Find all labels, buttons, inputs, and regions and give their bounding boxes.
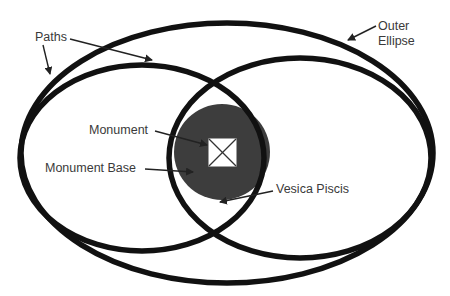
label-outer-ellipse-line2: Ellipse (378, 34, 415, 48)
arrow-paths-to-outer (43, 45, 50, 74)
label-outer-ellipse-line1: Outer (378, 19, 409, 33)
vesica-diagram: Paths Outer Ellipse Monument Monument Ba… (0, 0, 450, 296)
monument (209, 139, 236, 166)
label-monument-base: Monument Base (45, 161, 136, 175)
label-monument: Monument (89, 123, 149, 137)
arrow-paths-to-inner (70, 39, 152, 60)
label-vesica-piscis: Vesica Piscis (276, 182, 349, 196)
label-paths: Paths (35, 30, 67, 44)
arrow-outer-ellipse (348, 26, 376, 40)
